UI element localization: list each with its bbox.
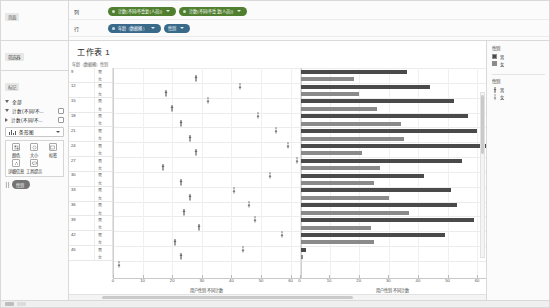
scrollbar-thumb[interactable]: [481, 95, 484, 154]
bar-mark[interactable]: [301, 107, 378, 111]
bar-mark[interactable]: [301, 137, 404, 141]
scatter-mark[interactable]: [117, 254, 121, 272]
row-header-group[interactable]: 9男女: [69, 68, 112, 83]
marks-property-color[interactable]: 颜色: [7, 143, 25, 158]
scatter-mark[interactable]: [179, 172, 183, 190]
bar-mark[interactable]: [301, 174, 425, 178]
bar-mark[interactable]: [301, 92, 360, 96]
row-header-group[interactable]: 12男女: [69, 83, 112, 98]
scatter-panel[interactable]: [113, 68, 300, 278]
row-header-group[interactable]: 39男女: [69, 216, 112, 231]
vertical-scrollbar[interactable]: [480, 92, 485, 258]
bar-mark[interactable]: [301, 70, 407, 74]
bar-mark[interactable]: [301, 218, 475, 222]
bar-mark[interactable]: [301, 159, 463, 163]
legend-item[interactable]: 女: [492, 93, 545, 100]
bar-mark[interactable]: [301, 181, 375, 185]
legend-item[interactable]: 男: [492, 53, 545, 60]
filters-pane[interactable]: 筛选器: [1, 41, 68, 71]
marks-card-item-all[interactable]: 全部: [5, 97, 64, 106]
sheet-tab-1[interactable]: [5, 302, 14, 306]
marks-property-tooltip[interactable]: 工具提示: [25, 159, 43, 174]
bar-mark[interactable]: [301, 144, 487, 148]
row-header-sex: 女: [98, 106, 102, 112]
bar-mark[interactable]: [301, 151, 363, 155]
row-header-group[interactable]: 33男女: [69, 187, 112, 202]
scatter-mark[interactable]: [253, 209, 257, 227]
marks-property-detail[interactable]: 详细信息: [7, 159, 25, 174]
scatter-mark[interactable]: [173, 232, 177, 250]
scatter-mark[interactable]: [194, 142, 198, 160]
bar-mark[interactable]: [301, 240, 375, 244]
pill-rows-0[interactable]: 年龄（数据桶）: [108, 24, 161, 33]
bar-mark[interactable]: [301, 114, 469, 118]
row-header-group[interactable]: 45男女: [69, 246, 112, 261]
scatter-mark[interactable]: [161, 157, 165, 175]
legend-item[interactable]: 男: [492, 86, 545, 93]
bar-mark[interactable]: [301, 129, 478, 133]
rows-shelf[interactable]: 行 年龄（数据桶） 性别: [69, 20, 549, 37]
bar-mark[interactable]: [301, 226, 372, 230]
bar-mark[interactable]: [301, 248, 307, 252]
scatter-mark[interactable]: [206, 90, 210, 108]
rows-shelf-track[interactable]: 年龄（数据桶） 性别: [108, 24, 190, 33]
pill-rows-1[interactable]: 性别: [164, 24, 190, 33]
row-header-group[interactable]: 24男女: [69, 142, 112, 157]
columns-shelf[interactable]: 列 计数(不同/不重复(人员)) 计数(不同/不重复(人员)): [69, 3, 549, 20]
bar-mark[interactable]: [301, 85, 431, 89]
bar-mark[interactable]: [301, 166, 381, 170]
marks-property-size[interactable]: 大小: [25, 143, 43, 158]
bar-mark[interactable]: [301, 255, 304, 259]
scatter-mark[interactable]: [188, 187, 192, 205]
marks-encoded-pill-row[interactable]: 性别: [5, 180, 64, 189]
scatter-mark[interactable]: [197, 217, 201, 235]
scatter-mark[interactable]: [232, 180, 236, 198]
bar-mark[interactable]: [301, 233, 445, 237]
scatter-mark[interactable]: [238, 76, 242, 94]
scatter-mark[interactable]: [241, 239, 245, 257]
bar-panel[interactable]: [300, 68, 487, 278]
bar-mark[interactable]: [301, 188, 451, 192]
mark-type-dropdown[interactable]: 条形图: [5, 127, 64, 137]
scatter-mark[interactable]: [170, 98, 174, 116]
sheet-tab-new[interactable]: [17, 302, 26, 306]
row-header-age: 33: [69, 187, 95, 201]
row-header-group[interactable]: 30男女: [69, 172, 112, 187]
marks-card-item-1[interactable]: 计数(不同/不...: [5, 106, 64, 115]
row-header-group[interactable]: 18男女: [69, 113, 112, 128]
row-header-sex: 男: [98, 83, 102, 89]
marks-encoded-pill[interactable]: 性别: [12, 180, 30, 189]
scatter-mark[interactable]: [268, 165, 272, 183]
pill-columns-1[interactable]: 计数(不同/不重复(人员)): [179, 7, 247, 16]
horizontal-scrollbar[interactable]: [69, 294, 486, 300]
scatter-mark[interactable]: [194, 68, 198, 86]
scatter-mark[interactable]: [256, 105, 260, 123]
scrollbar-thumb[interactable]: [102, 296, 352, 299]
scatter-mark[interactable]: [188, 128, 192, 146]
bar-mark[interactable]: [301, 122, 401, 126]
bar-mark[interactable]: [301, 211, 410, 215]
row-header-group[interactable]: 15男女: [69, 98, 112, 113]
pill-columns-0[interactable]: 计数(不同/不重复(人员)): [108, 7, 176, 16]
scatter-mark[interactable]: [280, 224, 284, 242]
scatter-mark[interactable]: [182, 202, 186, 220]
row-header-group[interactable]: 21男女: [69, 127, 112, 142]
bar-mark[interactable]: [301, 99, 454, 103]
bar-mark[interactable]: [301, 203, 457, 207]
row-header-group[interactable]: 36男女: [69, 202, 112, 217]
row-header-group[interactable]: 27男女: [69, 157, 112, 172]
marks-property-label[interactable]: 标签: [44, 143, 62, 158]
scatter-mark[interactable]: [286, 135, 290, 153]
scatter-mark[interactable]: [295, 150, 299, 168]
row-header-group[interactable]: 42男女: [69, 231, 112, 246]
legend-item[interactable]: 女: [492, 60, 545, 67]
bar-mark[interactable]: [301, 196, 389, 200]
bar-mark[interactable]: [301, 77, 354, 81]
marks-card-item-2[interactable]: 计数(不同/不...: [5, 115, 64, 124]
scatter-mark[interactable]: [179, 246, 183, 264]
scatter-mark[interactable]: [247, 194, 251, 212]
scatter-mark[interactable]: [164, 83, 168, 101]
scatter-mark[interactable]: [274, 120, 278, 138]
scatter-mark[interactable]: [179, 113, 183, 131]
columns-shelf-track[interactable]: 计数(不同/不重复(人员)) 计数(不同/不重复(人员)): [108, 7, 247, 16]
